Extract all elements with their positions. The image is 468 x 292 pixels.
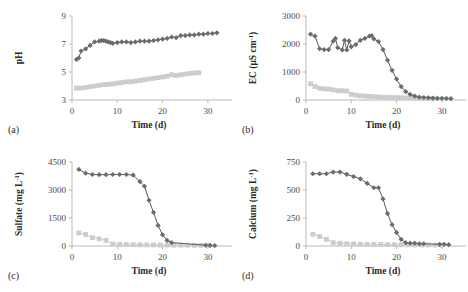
data-point-marker	[322, 47, 327, 52]
data-point-marker	[340, 47, 345, 52]
x-tick-label: 30	[203, 252, 213, 262]
data-point-marker	[324, 171, 329, 176]
data-point-marker	[128, 79, 133, 84]
y-tick-label: 3	[62, 95, 67, 105]
data-point-marker	[342, 38, 347, 43]
series-line	[79, 169, 215, 245]
data-point-marker	[74, 86, 79, 91]
data-point-marker	[331, 240, 336, 245]
data-point-marker	[344, 241, 349, 246]
panel-label-d: (d)	[242, 270, 254, 281]
data-point-marker	[324, 237, 329, 242]
data-point-marker	[310, 232, 315, 237]
data-point-marker	[76, 167, 81, 172]
figure-container: 35790102030Time (d)pH (a) 01000200030000…	[0, 0, 468, 292]
y-tick-label: 9	[62, 11, 67, 21]
x-tick-label: 20	[158, 252, 168, 262]
data-point-marker	[110, 82, 115, 87]
data-point-marker	[144, 242, 149, 247]
x-axis-title: Time (d)	[132, 266, 167, 277]
data-point-marker	[183, 72, 188, 77]
x-tick-label: 0	[304, 106, 309, 116]
data-point-marker	[371, 185, 376, 190]
data-point-marker	[349, 92, 354, 97]
data-point-marker	[151, 38, 156, 43]
data-point-marker	[79, 86, 84, 91]
data-point-marker	[376, 95, 381, 100]
data-point-marker	[104, 238, 109, 243]
data-point-marker	[169, 72, 174, 77]
sulfate-chart: 01500300045000102030Time (d)Sulfate (mg …	[0, 146, 234, 292]
data-point-marker	[378, 242, 383, 247]
data-point-marker	[392, 242, 397, 247]
data-point-marker	[131, 242, 136, 247]
data-point-marker	[83, 85, 88, 90]
y-axis-title: pH	[14, 51, 24, 64]
data-point-marker	[310, 171, 315, 176]
data-point-marker	[165, 36, 170, 41]
data-point-marker	[372, 94, 377, 99]
data-point-marker	[196, 32, 201, 37]
x-tick-label: 10	[113, 106, 123, 116]
data-point-marker	[394, 95, 399, 100]
x-axis-title: Time (d)	[366, 120, 401, 131]
data-point-marker	[156, 75, 161, 80]
data-point-marker	[367, 94, 372, 99]
y-tick-label: 1000	[282, 67, 301, 77]
data-point-marker	[119, 39, 124, 44]
data-point-marker	[133, 39, 138, 44]
data-point-marker	[335, 45, 340, 50]
panel-ec: 01000200030000102030Time (d)EC (μS cm-1)	[234, 0, 468, 146]
data-point-marker	[212, 243, 217, 248]
data-point-marker	[115, 40, 120, 45]
data-point-marker	[117, 172, 122, 177]
y-axis-title: Calcium (mg L-1)	[247, 169, 259, 239]
data-point-marker	[346, 38, 351, 43]
data-point-marker	[110, 172, 115, 177]
data-point-marker	[92, 84, 97, 89]
data-point-marker	[351, 242, 356, 247]
data-point-marker	[151, 76, 156, 81]
data-point-marker	[158, 243, 163, 248]
y-tick-label: 0	[296, 95, 301, 105]
y-tick-label: 750	[287, 157, 301, 167]
data-point-marker	[106, 82, 111, 87]
series-line	[313, 172, 449, 245]
data-point-marker	[97, 172, 102, 177]
x-tick-label: 10	[113, 252, 123, 262]
data-point-marker	[380, 47, 385, 52]
data-point-marker	[155, 223, 160, 228]
y-tick-label: 2000	[282, 39, 301, 49]
data-point-marker	[385, 242, 390, 247]
data-point-marker	[97, 237, 102, 242]
data-point-marker	[151, 243, 156, 248]
data-point-marker	[317, 86, 322, 91]
data-point-marker	[128, 40, 133, 45]
y-tick-label: 250	[287, 213, 301, 223]
data-point-marker	[362, 94, 367, 99]
data-point-marker	[169, 34, 174, 39]
data-point-marker	[308, 81, 313, 86]
data-point-marker	[183, 33, 188, 38]
data-point-marker	[312, 34, 317, 39]
data-point-marker	[192, 32, 197, 37]
y-tick-label: 5	[62, 67, 67, 77]
data-point-marker	[155, 37, 160, 42]
x-tick-label: 30	[437, 106, 447, 116]
data-point-marker	[83, 171, 88, 176]
data-point-marker	[76, 231, 81, 236]
data-point-marker	[317, 46, 322, 51]
ec-chart: 01000200030000102030Time (d)EC (μS cm-1)	[234, 0, 468, 146]
data-point-marker	[331, 88, 336, 93]
y-tick-label: 0	[62, 241, 67, 251]
data-point-marker	[326, 87, 331, 92]
data-point-marker	[372, 242, 377, 247]
y-tick-label: 4500	[48, 157, 67, 167]
calcium-chart: 02505007500102030Time (d)Calcium (mg L-1…	[234, 146, 468, 292]
y-tick-label: 3000	[282, 11, 301, 21]
x-tick-label: 20	[392, 106, 402, 116]
data-point-marker	[124, 39, 129, 44]
data-point-marker	[353, 93, 358, 98]
data-point-marker	[389, 68, 394, 73]
data-point-marker	[358, 242, 363, 247]
